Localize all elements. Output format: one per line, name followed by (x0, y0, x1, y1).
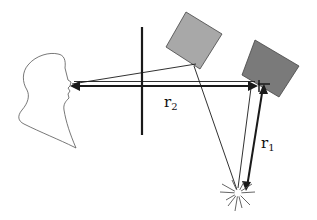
light-gray-square (166, 12, 222, 69)
sight-line-light-square (72, 64, 196, 84)
r2-label: r2 (164, 95, 178, 112)
diagram-canvas (0, 0, 317, 220)
reflection-line-light-square (194, 66, 237, 190)
r1-label: r1 (261, 136, 275, 153)
head-profile (19, 53, 76, 148)
r2-arrowhead-left (70, 81, 80, 91)
